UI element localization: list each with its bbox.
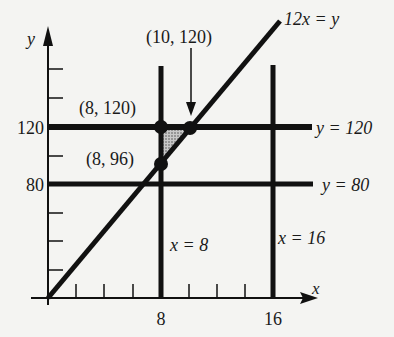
- label-12x-equals-y: 12x = y: [284, 9, 339, 29]
- tick-label-120: 120: [17, 118, 44, 138]
- y-axis-label: y: [25, 29, 35, 49]
- point-10-120: [183, 121, 197, 135]
- tick-label-16: 16: [264, 309, 282, 329]
- label-y-equals-120: y = 120: [314, 118, 372, 138]
- point-8-96: [154, 157, 168, 171]
- pointer-arrow-icon: [186, 48, 196, 116]
- label-x-equals-8: x = 8: [169, 235, 208, 255]
- label-x-equals-16: x = 16: [277, 228, 325, 248]
- y-axis-arrow-icon: [43, 26, 53, 46]
- x-axis-label: x: [311, 279, 320, 298]
- label-point-10-120: (10, 120): [146, 27, 212, 48]
- label-point-8-96: (8, 96): [86, 149, 134, 170]
- label-point-8-120: (8, 120): [79, 98, 136, 119]
- point-8-120: [154, 120, 168, 134]
- linear-constraints-diagram: y x 120 80 8 16 (10, 120) (8, 120) (8, 9…: [0, 0, 394, 337]
- tick-label-80: 80: [26, 175, 44, 195]
- tick-label-8: 8: [157, 309, 166, 329]
- label-y-equals-80: y = 80: [320, 175, 369, 195]
- y-axis: [43, 26, 63, 305]
